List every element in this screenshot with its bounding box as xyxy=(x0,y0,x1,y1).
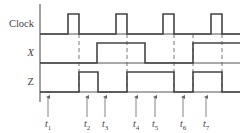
waveform-clock xyxy=(40,14,240,34)
time-label-t6: t6 xyxy=(180,118,187,132)
time-label-t4: t4 xyxy=(133,118,140,132)
time-label-t3: t3 xyxy=(102,118,109,132)
time-label-t5: t5 xyxy=(152,118,159,132)
timing-diagram: ClockXZ t1t2t3t4t5t6t7 xyxy=(0,0,245,133)
time-label-t7: t7 xyxy=(203,118,210,132)
waveform-x xyxy=(40,43,240,63)
waveform-z xyxy=(40,72,240,92)
time-label-t1: t1 xyxy=(45,118,52,132)
signal-label-z: Z xyxy=(28,76,34,87)
signal-label-x: X xyxy=(27,47,35,58)
time-markers: t1t2t3t4t5t6t7 xyxy=(45,97,210,132)
signal-labels: ClockXZ xyxy=(9,18,35,87)
time-label-t2: t2 xyxy=(84,118,91,132)
signal-label-clock: Clock xyxy=(9,18,35,29)
signal-traces xyxy=(40,14,240,92)
